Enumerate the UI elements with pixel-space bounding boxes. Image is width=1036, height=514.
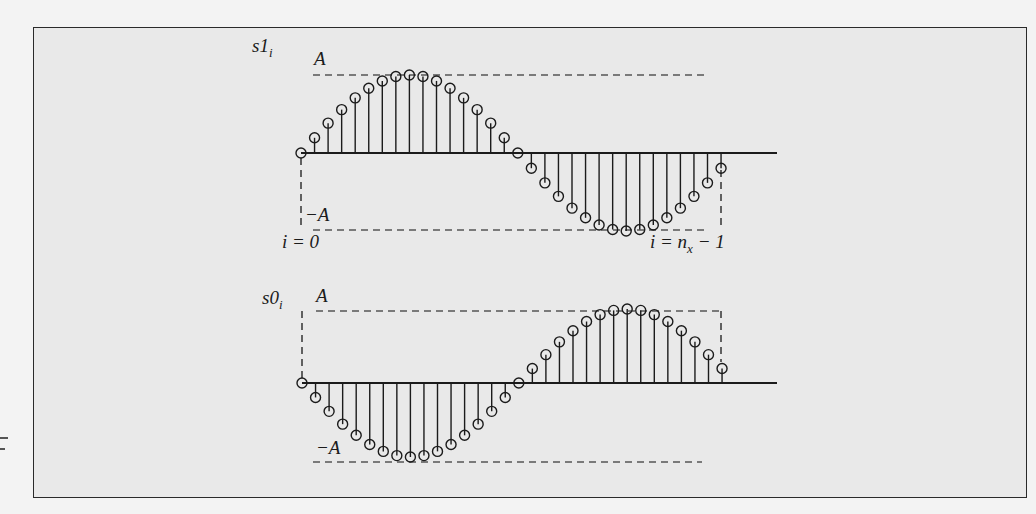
end-index-label: i = nx − 1 (650, 231, 725, 256)
plot-s0: s0i A −A (262, 285, 777, 462)
signal-label-s0: s0i (262, 287, 283, 312)
lower-bound-label: −A (316, 437, 341, 458)
start-index-label: i = 0 (282, 231, 320, 252)
stem-plots: s1i A −A i = 0 i = nx − 1 s0i A −A (0, 0, 1036, 514)
lower-bound-label: −A (305, 204, 330, 225)
upper-bound-label: A (312, 48, 326, 69)
signal-label-s1: s1i (252, 35, 273, 60)
upper-bound-label: A (314, 285, 328, 306)
plot-s1: s1i A −A i = 0 i = nx − 1 (252, 35, 777, 256)
